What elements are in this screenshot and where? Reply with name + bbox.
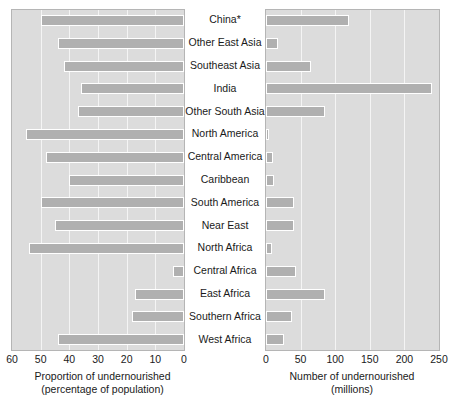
axis-tick-label: 150 [361, 353, 379, 365]
table-row [12, 170, 184, 193]
x-axis-title-left-line2: (percentage of population) [0, 383, 205, 396]
category-label: Other East Asia [173, 37, 277, 48]
table-row [266, 306, 439, 329]
category-label: Southeast Asia [173, 60, 277, 71]
bar-proportion-northamerica [26, 129, 184, 140]
table-row [266, 284, 439, 307]
category-label: Caribbean [173, 174, 277, 185]
axis-tick-label: 0 [181, 353, 187, 365]
table-row [266, 170, 439, 193]
axis-tick-label: 20 [121, 353, 133, 365]
category-label: East Africa [173, 288, 277, 299]
x-axis-title-left: Proportion of undernourished (percentage… [0, 370, 205, 396]
table-row [266, 215, 439, 238]
bar-number-india [266, 83, 432, 94]
category-label: Other South Asia [173, 106, 277, 117]
axis-tick-label: 40 [63, 353, 75, 365]
category-label: West Africa [173, 334, 277, 345]
table-row [266, 56, 439, 79]
bar-proportion-southamerica [41, 197, 184, 208]
bar-proportion-othereastasia [58, 38, 184, 49]
table-row [266, 147, 439, 170]
x-axis-title-right-line2: (millions) [255, 383, 449, 396]
table-row [12, 329, 184, 352]
axis-tick-label: 60 [6, 353, 18, 365]
table-row [12, 10, 184, 33]
table-row [12, 192, 184, 215]
category-label: South America [173, 197, 277, 208]
chart-panel-number [265, 9, 440, 351]
bar-rows-right [266, 10, 439, 350]
category-label: Central Africa [173, 265, 277, 276]
category-label: Central America [173, 151, 277, 162]
table-row [266, 192, 439, 215]
axis-tick-label: 250 [430, 353, 448, 365]
bar-number-china [266, 15, 349, 26]
bar-proportion-china [41, 15, 184, 26]
axis-tick-label: 30 [92, 353, 104, 365]
bar-proportion-centralamerica [46, 152, 184, 163]
table-row [266, 261, 439, 284]
chart-panel-proportion [11, 9, 185, 351]
axis-tick-label: 200 [396, 353, 414, 365]
x-axis-ticks-left: 6050403020100 [11, 353, 185, 367]
axis-tick-label: 0 [263, 353, 269, 365]
bar-proportion-southeastasia [64, 61, 184, 72]
bar-proportion-westafrica [58, 334, 184, 345]
bar-proportion-caribbean [69, 175, 184, 186]
table-row [12, 306, 184, 329]
axis-tick-label: 10 [149, 353, 161, 365]
table-row [266, 124, 439, 147]
table-row [12, 215, 184, 238]
bar-rows-left [12, 10, 184, 350]
x-axis-title-right: Number of undernourished (millions) [255, 370, 449, 396]
bar-proportion-northafrica [29, 243, 184, 254]
x-axis-title-left-line1: Proportion of undernourished [0, 370, 205, 383]
table-row [266, 78, 439, 101]
table-row [12, 101, 184, 124]
undernourishment-bar-chart-figure: China*Other East AsiaSoutheast AsiaIndia… [0, 0, 449, 417]
bar-proportion-neareast [55, 220, 184, 231]
table-row [12, 147, 184, 170]
category-label: India [173, 83, 277, 94]
table-row [266, 101, 439, 124]
bar-proportion-othersouthasia [78, 106, 184, 117]
category-label-column: China*Other East AsiaSoutheast AsiaIndia… [185, 9, 265, 351]
x-axis-title-right-line1: Number of undernourished [255, 370, 449, 383]
category-label: North Africa [173, 242, 277, 253]
table-row [266, 238, 439, 261]
table-row [12, 261, 184, 284]
table-row [266, 329, 439, 352]
axis-tick-label: 100 [326, 353, 344, 365]
table-row [12, 78, 184, 101]
axis-tick-label: 50 [35, 353, 47, 365]
table-row [12, 56, 184, 79]
table-row [12, 284, 184, 307]
table-row [12, 238, 184, 261]
category-label: Near East [173, 220, 277, 231]
axis-tick-label: 50 [295, 353, 307, 365]
category-label: North America [173, 128, 277, 139]
table-row [12, 124, 184, 147]
table-row [266, 33, 439, 56]
table-row [12, 33, 184, 56]
x-axis-ticks-right: 050100150200250 [265, 353, 440, 367]
table-row [266, 10, 439, 33]
category-label: Southern Africa [173, 311, 277, 322]
bar-proportion-india [81, 83, 184, 94]
category-label: China* [173, 14, 277, 25]
